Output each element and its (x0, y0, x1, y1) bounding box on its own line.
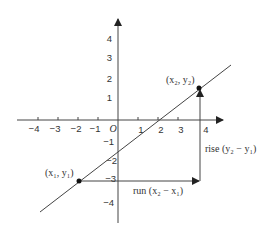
slope-diagram: −4 −3 −2 −1 1 2 3 4 O 4 3 2 1 −1 −2 −3 −… (0, 0, 271, 238)
y-tick-label: 4 (107, 33, 112, 44)
x-tick-label: −2 (71, 123, 82, 134)
y-tick-label: 2 (107, 73, 112, 84)
y-tick-label: 3 (107, 52, 112, 63)
rise-label: rise (y₂ − y₁) (205, 143, 256, 155)
point-p2-label: (x₂, y₂) (166, 74, 195, 86)
origin-label: O (109, 123, 116, 134)
x-tick-label: −1 (90, 123, 101, 134)
point-p2 (197, 86, 202, 91)
x-tick-label: −3 (50, 123, 61, 134)
y-tick-label: −3 (105, 173, 116, 184)
run-label: run (x₂ − x₁) (133, 185, 183, 197)
x-tick-label: −4 (29, 123, 40, 134)
y-tick-label: 1 (107, 92, 112, 103)
x-tick-label: 4 (203, 124, 208, 135)
point-p1 (77, 179, 82, 184)
point-p1-label: (x₁, y₁) (45, 167, 74, 179)
x-tick-labels: −4 −3 −2 −1 1 2 3 4 (29, 123, 209, 135)
y-tick-label: −1 (103, 136, 114, 147)
x-tick-label: 2 (158, 124, 163, 135)
y-tick-label: −4 (103, 197, 114, 208)
x-tick-label: 3 (178, 124, 183, 135)
